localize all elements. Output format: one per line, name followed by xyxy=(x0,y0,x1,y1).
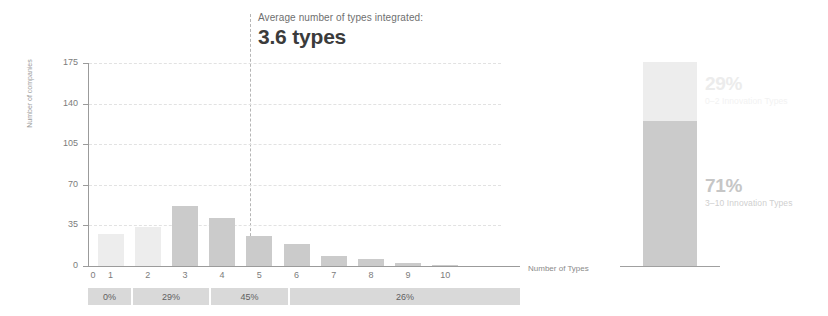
bar xyxy=(358,259,384,266)
y-axis-line xyxy=(88,63,89,266)
percent-segment: 26% xyxy=(290,288,520,305)
x-axis-tick-label: 2 xyxy=(133,270,163,280)
x-axis-tick-label: 1 xyxy=(96,270,126,280)
percent-segment: 45% xyxy=(211,288,288,305)
x-axis-tick-label: 3 xyxy=(170,270,200,280)
percent-segment: 0% xyxy=(88,288,131,305)
gridline xyxy=(89,104,501,105)
bar xyxy=(172,206,198,266)
average-annotation-value: 3.6 types xyxy=(258,25,423,49)
gridline xyxy=(89,144,501,145)
stacked-bar-label: 71%3–10 Innovation Types xyxy=(705,176,792,208)
bar xyxy=(246,236,272,266)
stacked-bar-sublabel: 0–2 Innovation Types xyxy=(705,96,788,106)
x-axis-tick-label: 5 xyxy=(244,270,274,280)
bar xyxy=(321,256,347,266)
gridline xyxy=(89,63,501,64)
stacked-bar-label: 29%0–2 Innovation Types xyxy=(705,74,788,106)
y-axis-tick-label: 175 xyxy=(38,57,78,67)
x-axis-tick-label: 10 xyxy=(430,270,460,280)
y-axis-tick-label: 35 xyxy=(38,219,78,229)
bar xyxy=(135,227,161,266)
stacked-bar-sublabel: 3–10 Innovation Types xyxy=(705,198,792,208)
y-axis-tick-label: 0 xyxy=(38,260,78,270)
y-axis-tick-label: 105 xyxy=(38,138,78,148)
chart-canvas: Average number of types integrated: 3.6 … xyxy=(0,0,828,316)
stacked-bar-percent: 29% xyxy=(705,74,788,93)
x-axis-tick-label: 6 xyxy=(282,270,312,280)
y-axis-tick-label: 70 xyxy=(38,179,78,189)
x-axis-tick-label: 7 xyxy=(319,270,349,280)
stacked-bar-segment xyxy=(643,121,697,266)
gridline xyxy=(89,185,501,186)
bar xyxy=(284,244,310,266)
average-annotation-caption: Average number of types integrated: xyxy=(258,12,423,23)
stacked-bar-baseline xyxy=(620,266,720,267)
stacked-bar xyxy=(643,62,697,266)
x-axis-line xyxy=(88,266,520,267)
bar xyxy=(98,234,124,266)
stacked-bar-segment xyxy=(643,62,697,121)
percent-segment: 29% xyxy=(133,288,209,305)
x-axis-tick-label: 8 xyxy=(356,270,386,280)
average-dashed-line xyxy=(250,14,251,266)
average-annotation: Average number of types integrated: 3.6 … xyxy=(258,12,423,49)
x-axis-title: Number of Types xyxy=(528,264,589,273)
y-axis-title: Number of companies xyxy=(26,49,33,139)
bar xyxy=(209,218,235,266)
x-axis-tick-label: 4 xyxy=(207,270,237,280)
stacked-bar-percent: 71% xyxy=(705,176,792,195)
x-axis-tick-label: 9 xyxy=(393,270,423,280)
y-axis-tick-label: 140 xyxy=(38,98,78,108)
